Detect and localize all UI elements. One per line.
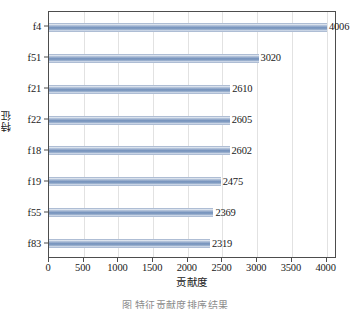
- y-axis: f4f51f21f22f18f19f55f83: [0, 11, 48, 258]
- bar-row[interactable]: 2605: [49, 116, 337, 125]
- bar-row[interactable]: 2475: [49, 177, 337, 186]
- y-tick-label-f55: f55: [28, 206, 41, 217]
- bar-f18[interactable]: [49, 146, 230, 155]
- bar-row[interactable]: 4006: [49, 23, 337, 32]
- plot-area: 40063020261026052602247523692319: [48, 11, 336, 258]
- x-axis-title: 贡献度: [48, 274, 336, 289]
- y-tick-label-f19: f19: [28, 175, 41, 186]
- bar-f21[interactable]: [49, 85, 230, 94]
- bar-f55[interactable]: [49, 208, 213, 217]
- bar-f51[interactable]: [49, 54, 259, 63]
- bar-chart-figure: 特征 f4f51f21f22f18f19f55f83 4006302026102…: [0, 0, 350, 309]
- x-tick-label-3500: 3500: [281, 262, 301, 273]
- x-tick-label-2500: 2500: [211, 262, 231, 273]
- x-tick-label-1000: 1000: [107, 262, 127, 273]
- bar-f4[interactable]: [49, 23, 327, 32]
- bar-row[interactable]: 3020: [49, 54, 337, 63]
- bar-value-label-f18: 2602: [232, 145, 252, 156]
- x-tick-label-0: 0: [45, 262, 50, 273]
- bar-value-label-f83: 2319: [212, 238, 232, 249]
- x-tick-label-4000: 4000: [315, 262, 335, 273]
- y-tick-label-f21: f21: [28, 83, 41, 94]
- y-tick-label-f83: f83: [28, 237, 41, 248]
- y-tick-label-f4: f4: [33, 21, 41, 32]
- bar-row[interactable]: 2369: [49, 208, 337, 217]
- bars-layer: 40063020261026052602247523692319: [49, 12, 335, 257]
- y-tick-label-f22: f22: [28, 114, 41, 125]
- figure-caption: 图 特征贡献度排序结果: [0, 299, 350, 309]
- y-tick-label-f51: f51: [28, 52, 41, 63]
- y-tick-label-f18: f18: [28, 144, 41, 155]
- bar-value-label-f55: 2369: [215, 207, 235, 218]
- bar-f19[interactable]: [49, 177, 221, 186]
- bar-value-label-f4: 4006: [329, 22, 349, 33]
- bar-value-label-f51: 3020: [261, 53, 281, 64]
- bar-f83[interactable]: [49, 239, 210, 248]
- bar-row[interactable]: 2610: [49, 85, 337, 94]
- bar-row[interactable]: 2602: [49, 146, 337, 155]
- bar-f22[interactable]: [49, 116, 230, 125]
- bar-value-label-f21: 2610: [232, 83, 252, 94]
- bar-value-label-f19: 2475: [223, 176, 243, 187]
- x-tick-label-500: 500: [75, 262, 90, 273]
- bar-row[interactable]: 2319: [49, 239, 337, 248]
- x-tick-label-3000: 3000: [246, 262, 266, 273]
- bar-value-label-f22: 2605: [232, 114, 252, 125]
- x-tick-label-2000: 2000: [177, 262, 197, 273]
- x-tick-label-1500: 1500: [142, 262, 162, 273]
